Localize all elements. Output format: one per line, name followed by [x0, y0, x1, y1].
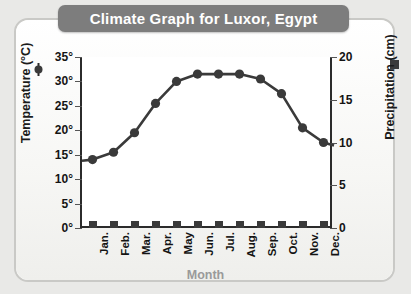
- temperature-data-point: [193, 70, 202, 79]
- temperature-data-point: [88, 155, 97, 164]
- left-tick-label: 5°: [62, 197, 73, 211]
- temperature-data-point: [277, 89, 286, 98]
- x-tick-label: Dec.: [329, 232, 341, 256]
- temperature-data-point: [151, 99, 160, 108]
- left-tick-label: 0°: [62, 221, 73, 235]
- left-tick-label: 25°: [55, 99, 73, 113]
- temperature-data-point: [214, 70, 223, 79]
- left-tick-mark: [75, 81, 82, 82]
- temperature-data-point: [172, 77, 181, 86]
- x-tick-label: Jun.: [203, 232, 215, 256]
- right-tick-label: 20: [339, 50, 352, 64]
- right-tick-label: 15: [339, 93, 352, 107]
- left-tick-mark: [75, 228, 82, 229]
- left-tick-label: 20°: [55, 123, 73, 137]
- right-tick-mark: [330, 228, 337, 229]
- x-axis-title: Month: [0, 268, 411, 282]
- temperature-data-point: [130, 128, 139, 137]
- x-tick-label: Feb.: [119, 232, 131, 256]
- temperature-data-point: [298, 123, 307, 132]
- temperature-legend-icon: [32, 62, 45, 75]
- x-tick-label: Nov.: [308, 232, 320, 256]
- x-tick-label: Oct.: [287, 232, 299, 254]
- temperature-line-series: [82, 57, 334, 228]
- x-tick-label: May: [182, 232, 194, 254]
- left-tick-label: 15°: [55, 148, 73, 162]
- x-tick-label: Aug.: [245, 232, 257, 258]
- left-tick-mark: [75, 204, 82, 205]
- x-tick-label: Sep.: [266, 232, 278, 256]
- temperature-data-point: [319, 138, 328, 147]
- left-tick-mark: [75, 179, 82, 180]
- right-tick-label: 10: [339, 136, 352, 150]
- x-tick-label: Mar.: [140, 232, 152, 255]
- left-tick-mark: [75, 130, 82, 131]
- right-tick-label: 5: [339, 178, 346, 192]
- left-tick-mark: [75, 155, 82, 156]
- plot-area: 35°30°25°20°15°10°5°0° 20151050 Jan.Feb.…: [80, 57, 332, 228]
- x-tick-label: Jan.: [98, 232, 110, 255]
- x-tick-label: Apr.: [161, 232, 173, 254]
- left-tick-label: 10°: [55, 172, 73, 186]
- temperature-data-point: [235, 70, 244, 79]
- temperature-line: [93, 74, 324, 160]
- left-tick-mark: [75, 106, 82, 107]
- temperature-data-point: [256, 74, 265, 83]
- title-banner: Climate Graph for Luxor, Egypt: [58, 5, 349, 32]
- page-title: Climate Graph for Luxor, Egypt: [90, 10, 318, 27]
- x-tick-label: Jul.: [224, 232, 236, 252]
- left-tick-label: 35°: [55, 50, 73, 64]
- left-tick-mark: [75, 57, 82, 58]
- climate-graph-figure: Climate Graph for Luxor, Egypt Temperatu…: [0, 0, 411, 294]
- left-axis-title: Temperature (°C): [19, 33, 33, 153]
- temperature-data-point: [109, 148, 118, 157]
- left-tick-label: 30°: [55, 74, 73, 88]
- right-axis-title: Precipitation (cm): [383, 22, 397, 152]
